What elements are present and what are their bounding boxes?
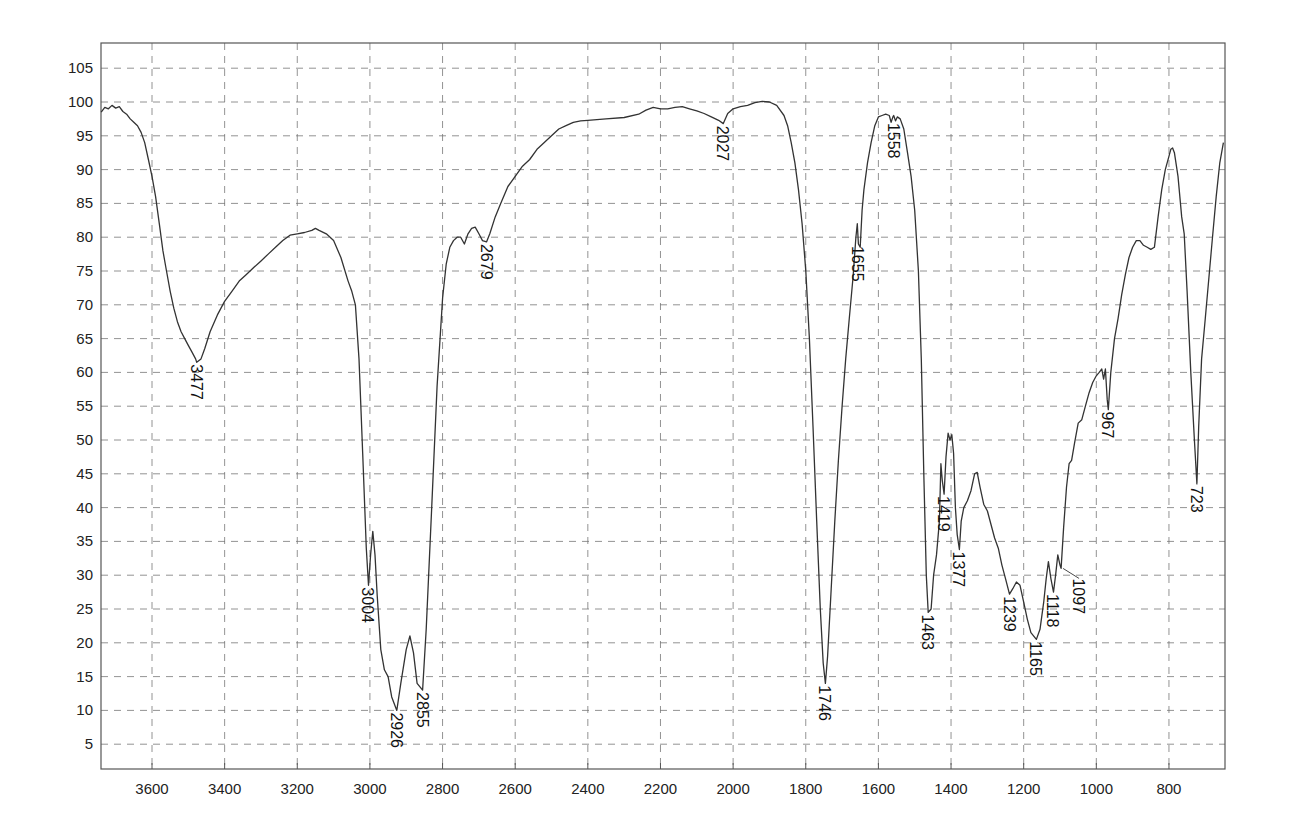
peak-label-text: 2027 [714, 126, 731, 162]
peak-label-text: 1746 [816, 685, 833, 721]
peak-label-1377: 1377 [950, 552, 967, 588]
peak-label-text: 1239 [1001, 596, 1018, 632]
x-tick-label: 1200 [1007, 780, 1040, 797]
x-tick-label: 2200 [644, 780, 677, 797]
y-tick-label: 5 [85, 735, 93, 752]
peak-label-text: 1463 [919, 614, 936, 650]
y-tick-label: 60 [76, 363, 93, 380]
peak-label-1239: 1239 [1001, 596, 1018, 632]
x-tick-label: 2400 [571, 780, 604, 797]
y-tick-label: 85 [76, 194, 93, 211]
peak-label-text: 1377 [950, 552, 967, 588]
x-tick-label: 3000 [353, 780, 386, 797]
peak-label-text: 1558 [885, 123, 902, 159]
y-tick-label: 105 [68, 59, 93, 76]
peak-label-text: 1097 [1070, 578, 1087, 614]
peak-label-3477: 3477 [188, 364, 205, 400]
y-tick-label: 35 [76, 532, 93, 549]
peak-annotations: 3477300429262855267920271746165515581463… [188, 123, 1205, 748]
y-tick-label: 95 [76, 127, 93, 144]
y-tick-label: 55 [76, 397, 93, 414]
peak-label-2679: 2679 [478, 244, 495, 280]
peak-label-text: 1419 [935, 496, 952, 532]
peak-label-1746: 1746 [816, 685, 833, 721]
x-tick-label: 3600 [135, 780, 168, 797]
x-tick-label: 3200 [281, 780, 314, 797]
y-tick-label: 20 [76, 634, 93, 651]
peak-label-1655: 1655 [849, 246, 866, 282]
x-tick-label: 2800 [426, 780, 459, 797]
y-tick-label: 75 [76, 262, 93, 279]
peak-leader-line [1063, 568, 1079, 578]
y-tick-label: 90 [76, 161, 93, 178]
x-tick-label: 3400 [208, 780, 241, 797]
x-tick-label: 2000 [716, 780, 749, 797]
peak-label-2027: 2027 [714, 126, 731, 162]
peak-label-1118: 1118 [1044, 594, 1061, 627]
x-tick-label: 800 [1156, 780, 1181, 797]
y-tick-label: 15 [76, 668, 93, 685]
y-tick-label: 50 [76, 431, 93, 448]
ir-spectrum-chart: 5101520253035404550556065707580859095100… [0, 0, 1290, 836]
peak-label-text: 2855 [414, 692, 431, 728]
y-axis-tick-labels: 5101520253035404550556065707580859095100… [68, 59, 93, 752]
x-tick-label: 1800 [789, 780, 822, 797]
x-tick-label: 1000 [1080, 780, 1113, 797]
peak-label-text: 3004 [359, 587, 376, 623]
x-tick-label: 1600 [862, 780, 895, 797]
peak-label-1419: 1419 [935, 496, 952, 532]
peak-label-1097: 1097 [1070, 578, 1087, 614]
x-axis-tick-labels: 3600340032003000280026002400220020001800… [135, 780, 1181, 797]
peak-label-1165: 1165 [1027, 641, 1044, 676]
peak-label-text: 1118 [1044, 594, 1061, 627]
y-tick-label: 30 [76, 566, 93, 583]
y-tick-label: 70 [76, 296, 93, 313]
peak-label-text: 3477 [188, 364, 205, 400]
peak-label-text: 967 [1099, 412, 1116, 439]
peak-label-text: 1655 [849, 246, 866, 282]
y-tick-label: 25 [76, 600, 93, 617]
grid-lines [101, 43, 1225, 769]
peak-label-1558: 1558 [885, 123, 902, 159]
peak-label-text: 1165 [1027, 641, 1044, 676]
peak-label-1463: 1463 [919, 614, 936, 650]
peak-label-967: 967 [1099, 412, 1116, 439]
y-tick-label: 80 [76, 228, 93, 245]
peak-label-text: 2679 [478, 244, 495, 280]
peak-label-2855: 2855 [414, 692, 431, 728]
y-tick-label: 100 [68, 93, 93, 110]
y-tick-label: 40 [76, 499, 93, 516]
peak-label-3004: 3004 [359, 587, 376, 623]
y-tick-label: 10 [76, 701, 93, 718]
peak-label-2926: 2926 [388, 712, 405, 748]
peak-label-text: 723 [1188, 486, 1205, 513]
y-tick-label: 45 [76, 465, 93, 482]
x-tick-label: 2600 [499, 780, 532, 797]
x-tick-label: 1400 [934, 780, 967, 797]
y-tick-label: 65 [76, 330, 93, 347]
peak-label-723: 723 [1188, 486, 1205, 513]
peak-label-text: 2926 [388, 712, 405, 748]
